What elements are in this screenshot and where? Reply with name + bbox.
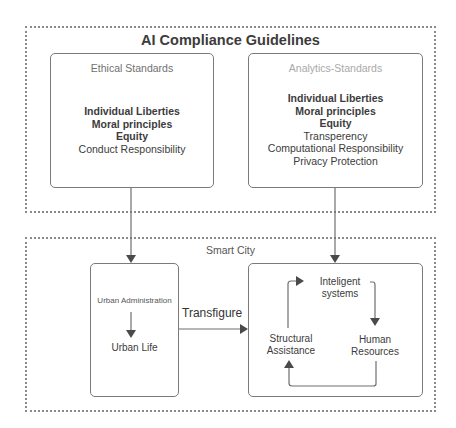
arrowhead-down-icon — [126, 330, 136, 338]
arrowhead-right-icon — [296, 276, 304, 286]
arrowhead-up-icon — [284, 360, 294, 368]
arrowhead-right-icon — [240, 324, 248, 334]
arrowhead-down-icon — [126, 255, 136, 263]
arrowhead-down-icon — [370, 318, 380, 326]
human-to-structural-connector — [289, 361, 376, 386]
structural-to-intelligent-connector — [288, 281, 296, 328]
intelligent-to-human-connector — [370, 282, 375, 318]
arrowhead-down-icon — [330, 255, 340, 263]
connectors-layer — [0, 0, 456, 428]
